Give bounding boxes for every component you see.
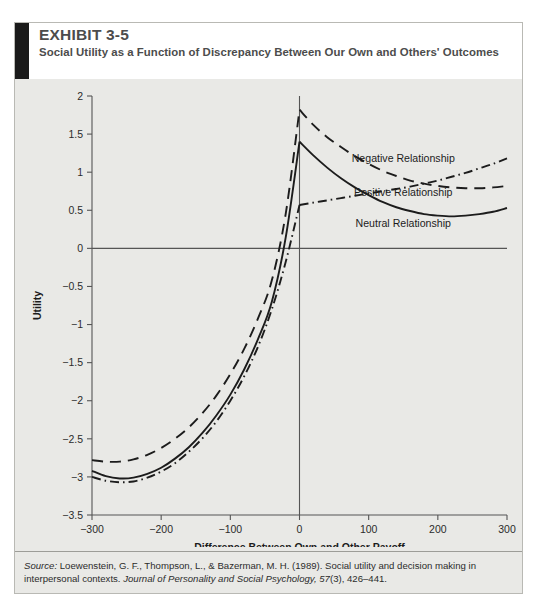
series-label-negative-relationship: Negative Relationship bbox=[352, 152, 455, 164]
x-tick-label: 200 bbox=[429, 523, 447, 535]
series-line-positive-relationship bbox=[300, 158, 508, 204]
x-tick-label: −300 bbox=[80, 523, 104, 535]
x-axis-title: Difference Between Own and Other Payoff bbox=[194, 541, 405, 547]
social-utility-line-chart: 21.510.50−0.5−1−1.5−2−2.5−3−3.5−300−200−… bbox=[15, 79, 522, 547]
series-line-neutral-relationship bbox=[92, 142, 300, 479]
x-tick-label: 300 bbox=[498, 523, 516, 535]
y-tick-label: −3.5 bbox=[62, 509, 83, 521]
x-tick-label: −200 bbox=[149, 523, 173, 535]
y-tick-label: −3 bbox=[71, 471, 83, 483]
y-tick-label: 1.5 bbox=[68, 128, 83, 140]
x-tick-label: −100 bbox=[219, 523, 243, 535]
exhibit-title: Social Utility as a Function of Discrepa… bbox=[39, 45, 516, 59]
x-tick-label: 0 bbox=[297, 523, 303, 535]
exhibit-figure: EXHIBIT 3-5 Social Utility as a Function… bbox=[0, 0, 537, 616]
y-tick-label: −2 bbox=[71, 394, 83, 406]
source-divider bbox=[15, 551, 522, 552]
source-citation: Source: Loewenstein, G. F., Thompson, L.… bbox=[24, 559, 516, 586]
y-tick-label: −1.5 bbox=[62, 356, 83, 368]
source-journal: Journal of Personality and Social Psycho… bbox=[123, 573, 330, 584]
y-tick-label: −1 bbox=[71, 318, 83, 330]
series-label-positive-relationship: Positive Relationship bbox=[354, 186, 452, 198]
series-label-neutral-relationship: Neutral Relationship bbox=[356, 217, 452, 229]
y-tick-label: 0 bbox=[77, 242, 83, 254]
exhibit-title-band: EXHIBIT 3-5 Social Utility as a Function… bbox=[14, 22, 523, 79]
y-tick-label: −2.5 bbox=[62, 433, 83, 445]
y-tick-label: 1 bbox=[77, 166, 83, 178]
y-axis-title: Utility bbox=[31, 291, 43, 320]
series-line-negative-relationship bbox=[300, 110, 508, 189]
source-label: Source: bbox=[24, 560, 57, 571]
x-tick-label: 100 bbox=[360, 523, 378, 535]
series-line-negative-relationship bbox=[92, 110, 300, 462]
title-text-wrap: EXHIBIT 3-5 Social Utility as a Function… bbox=[39, 25, 516, 59]
source-text-2: (3), 426–441. bbox=[330, 573, 387, 584]
exhibit-number: EXHIBIT 3-5 bbox=[39, 25, 516, 44]
title-accent-bar bbox=[15, 23, 29, 80]
y-tick-label: −0.5 bbox=[62, 280, 83, 292]
chart-plot-region: 21.510.50−0.5−1−1.5−2−2.5−3−3.5−300−200−… bbox=[15, 79, 522, 547]
y-tick-label: 2 bbox=[77, 90, 83, 102]
y-tick-label: 0.5 bbox=[68, 204, 83, 216]
